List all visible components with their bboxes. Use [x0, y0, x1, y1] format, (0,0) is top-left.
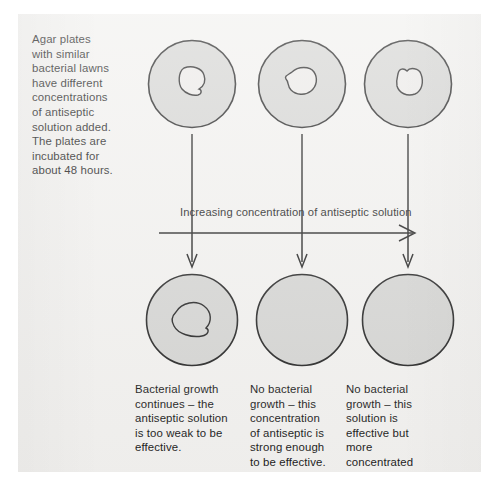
down-arrow-3 — [403, 134, 413, 267]
down-arrow-1 — [187, 134, 197, 267]
caption-dish-3: No bacterial growth – this solution is e… — [346, 382, 456, 472]
increasing-concentration-arrow — [159, 225, 415, 241]
bottom-dish-2 — [254, 272, 350, 368]
down-arrow-2 — [297, 134, 307, 267]
intro-text: Agar plates with similar bacterial lawns… — [32, 32, 150, 178]
caption-dish-2: No bacterial growth – this concentration… — [250, 382, 350, 470]
agar-plate-circle — [257, 275, 348, 366]
agar-plate-circle — [363, 275, 454, 366]
bottom-dish-1 — [144, 272, 240, 368]
top-dish-3 — [362, 38, 454, 130]
top-dish-2 — [256, 38, 348, 130]
bottom-dish-3 — [360, 272, 456, 368]
figure-panel: Agar plates with similar bacterial lawns… — [18, 14, 481, 472]
clear-zone-blob — [179, 67, 205, 95]
caption-dish-1: Bacterial growth continues – the antisep… — [135, 382, 245, 455]
increasing-concentration-label: Increasing concentration of antiseptic s… — [180, 205, 412, 219]
clear-zone-blob — [397, 69, 423, 95]
top-dish-1 — [146, 38, 238, 130]
